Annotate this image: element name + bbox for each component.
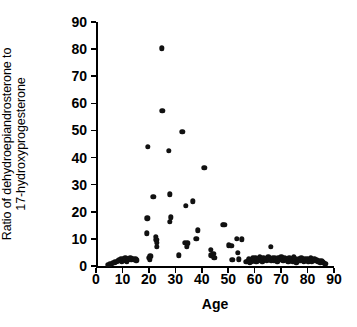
- y-axis-tick: [91, 238, 96, 240]
- x-axis-tick-label: 60: [247, 272, 263, 286]
- y-axis-tick-label: 20: [71, 205, 87, 219]
- x-axis-tick-label: 10: [115, 272, 131, 286]
- y-axis-tick-label: 50: [71, 123, 87, 137]
- y-axis-tick-label: 40: [71, 151, 87, 165]
- x-axis-tick-label: 40: [194, 272, 210, 286]
- y-axis-title: Ratio of dehydroepiandrosterone to 17-hy…: [0, 0, 60, 300]
- y-axis-tick-label: 30: [71, 178, 87, 192]
- data-point: [194, 236, 199, 241]
- data-point: [185, 241, 190, 246]
- x-axis-tick-label: 90: [326, 272, 342, 286]
- y-axis-tick: [91, 48, 96, 50]
- x-axis-title: Age: [96, 296, 334, 312]
- x-axis-tick-label: 20: [141, 272, 157, 286]
- y-axis-tick-label: 80: [71, 42, 87, 56]
- scatter-plot-figure: Ratio of dehydroepiandrosterone to 17-hy…: [0, 0, 357, 327]
- y-axis-title-line-2: 17-hydroxyprogesterone: [14, 77, 28, 210]
- data-point: [154, 240, 159, 245]
- data-point: [239, 236, 244, 241]
- y-axis-tick: [91, 103, 96, 105]
- data-point: [167, 219, 172, 224]
- x-axis-tick-label: 30: [168, 272, 184, 286]
- x-axis-line: [96, 266, 334, 268]
- data-point: [159, 46, 164, 51]
- data-point: [144, 231, 149, 236]
- data-point: [228, 243, 233, 248]
- y-axis-tick: [91, 265, 96, 267]
- data-point: [268, 244, 273, 249]
- y-axis-tick-label: 10: [71, 232, 87, 246]
- x-axis-tick-label: 0: [92, 272, 100, 286]
- x-axis-tick-label: 70: [273, 272, 289, 286]
- x-axis-tick-label: 80: [300, 272, 316, 286]
- data-point: [148, 254, 153, 259]
- y-axis-tick-label: 60: [71, 96, 87, 110]
- data-point: [151, 194, 156, 199]
- y-axis-tick-label: 0: [79, 259, 87, 273]
- data-point: [176, 252, 181, 257]
- data-point: [145, 144, 150, 149]
- data-point: [235, 250, 240, 255]
- data-point: [167, 192, 172, 197]
- y-axis-tick-label: 70: [71, 69, 87, 83]
- y-axis-tick: [91, 184, 96, 186]
- data-point: [133, 258, 138, 263]
- data-point: [222, 222, 227, 227]
- data-point: [183, 203, 188, 208]
- y-axis-tick: [91, 130, 96, 132]
- plot-area: 0102030405060708090 0102030405060708090: [96, 22, 334, 268]
- x-axis-tick-label: 50: [220, 272, 236, 286]
- data-point: [236, 257, 241, 262]
- data-point: [159, 108, 164, 113]
- data-point: [154, 244, 159, 249]
- y-axis-tick: [91, 157, 96, 159]
- y-axis-tick: [91, 75, 96, 77]
- data-point: [212, 255, 217, 260]
- y-axis-line: [96, 22, 98, 268]
- y-axis-title-line-1: Ratio of dehydroepiandrosterone to: [0, 48, 14, 241]
- data-point: [190, 199, 195, 204]
- data-point: [230, 257, 235, 262]
- y-axis-tick-label: 90: [71, 15, 87, 29]
- data-point: [168, 214, 173, 219]
- y-axis-tick: [91, 211, 96, 213]
- data-point: [201, 165, 206, 170]
- data-point: [180, 129, 185, 134]
- data-point: [195, 228, 200, 233]
- y-axis-tick: [91, 21, 96, 23]
- data-point: [166, 148, 171, 153]
- data-point: [145, 216, 150, 221]
